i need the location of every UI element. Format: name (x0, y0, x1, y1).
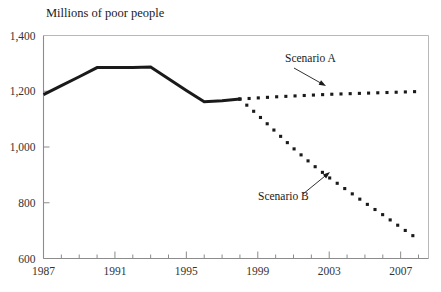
series-dot (275, 95, 278, 98)
series-dot (238, 98, 241, 101)
chart-container: 6008001,0001,2001,400 198719911995199920… (0, 0, 441, 292)
series-dot (366, 203, 369, 206)
series-dot (411, 234, 414, 237)
series-dot (413, 90, 416, 93)
series-dot (339, 92, 342, 95)
x-tick-label: 1995 (175, 265, 198, 277)
y-tick-label: 1,400 (10, 30, 36, 43)
series-dot (330, 93, 333, 96)
poor-people-projection-chart: 6008001,0001,2001,400 198719911995199920… (0, 0, 441, 292)
series-dot (351, 192, 354, 195)
series-dot (321, 171, 324, 174)
series-dot (300, 153, 303, 156)
x-tick-label: 2003 (318, 265, 341, 277)
series-dot (336, 182, 339, 185)
series-dot (358, 198, 361, 201)
series-dot (349, 92, 352, 95)
series-dot (286, 141, 289, 144)
series-dot (293, 94, 296, 97)
y-tick-label: 600 (18, 253, 36, 265)
series-dot (245, 104, 248, 107)
series-dot (306, 159, 309, 162)
series-dot (248, 97, 251, 100)
series-dot (266, 96, 269, 99)
annotation-label: Scenario B (258, 190, 309, 202)
x-tick-label: 2007 (389, 265, 412, 277)
x-tick-label: 1987 (32, 265, 55, 277)
y-tick-label: 1,200 (10, 85, 36, 98)
series-dot (389, 218, 392, 221)
x-tick-label: 1999 (246, 265, 269, 277)
y-tick-label: 800 (18, 197, 36, 209)
series-dot (385, 91, 388, 94)
series-dot (404, 90, 407, 93)
series-dot (279, 135, 282, 138)
series-dot (272, 129, 275, 132)
series-dot (321, 93, 324, 96)
series-dot (312, 94, 315, 97)
series-dot (376, 91, 379, 94)
chart-title: Millions of poor people (46, 6, 165, 20)
series-dot (284, 95, 287, 98)
chart-background (0, 0, 441, 292)
series-dot (303, 94, 306, 97)
series-dot (381, 213, 384, 216)
series-dot (314, 165, 317, 168)
y-tick-label: 1,000 (10, 141, 36, 154)
series-dot (252, 110, 255, 113)
series-dot (328, 176, 331, 179)
series-dot (257, 96, 260, 99)
annotation-label: Scenario A (285, 52, 336, 64)
series-dot (358, 92, 361, 95)
series-dot (396, 224, 399, 227)
series-dot (259, 116, 262, 119)
series-dot (367, 92, 370, 95)
series-dot (343, 187, 346, 190)
series-dot (266, 122, 269, 125)
series-dot (373, 208, 376, 211)
series-dot (293, 147, 296, 150)
series-dot (404, 229, 407, 232)
series-dot (395, 91, 398, 94)
x-tick-label: 1991 (103, 265, 126, 277)
